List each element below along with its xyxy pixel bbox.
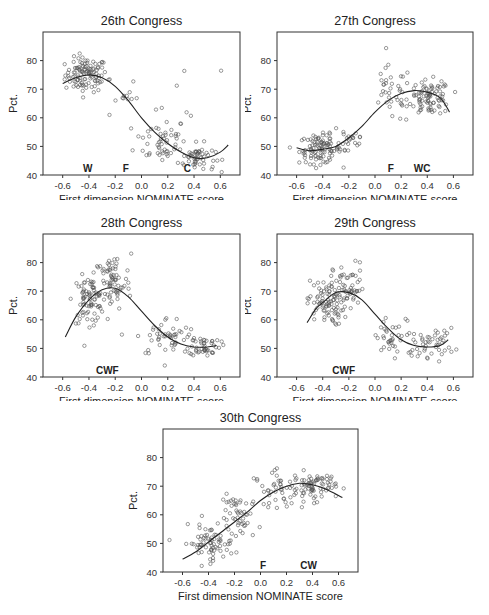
- y-tick-label: 70: [26, 84, 37, 95]
- chart-panel-26: 26th Congress4050607080-0.6-0.4-0.20.00.…: [0, 0, 245, 200]
- chart-panel-29: 29th Congress4050607080-0.6-0.4-0.20.00.…: [245, 201, 489, 401]
- x-tick-label: 0.0: [368, 180, 381, 191]
- chart-title: 29th Congress: [334, 216, 415, 230]
- scatter-points: [306, 259, 458, 363]
- party-marker: CWF: [332, 365, 355, 376]
- x-tick-label: -0.2: [107, 382, 123, 393]
- party-marker: C: [184, 163, 191, 174]
- y-tick-label: 70: [146, 481, 157, 492]
- x-tick-label: -0.2: [341, 180, 357, 191]
- x-tick-label: 0.6: [332, 577, 345, 588]
- y-tick-label: 40: [260, 372, 271, 383]
- y-tick-label: 70: [260, 84, 271, 95]
- x-tick-label: 0.2: [161, 382, 174, 393]
- x-tick-label: 0.0: [254, 577, 267, 588]
- y-tick-label: 40: [260, 170, 271, 181]
- chart-panel-30: 30th Congress4050607080-0.6-0.4-0.20.00.…: [122, 407, 372, 612]
- plot-frame: [43, 32, 240, 175]
- y-tick-label: 50: [146, 538, 157, 549]
- x-tick-label: -0.2: [226, 577, 242, 588]
- y-tick-label: 50: [26, 141, 37, 152]
- x-axis-label: First dimension NOMINATE score: [293, 193, 458, 200]
- x-tick-label: -0.4: [200, 577, 216, 588]
- plot-frame: [277, 32, 473, 175]
- chart-svg: 30th Congress4050607080-0.6-0.4-0.20.00.…: [122, 407, 372, 612]
- x-tick-label: -0.4: [315, 382, 331, 393]
- y-axis-label: Pct.: [245, 296, 253, 315]
- fit-curve: [63, 75, 229, 159]
- y-tick-label: 70: [26, 286, 37, 297]
- x-tick-label: -0.6: [288, 180, 304, 191]
- x-tick-label: 0.2: [395, 382, 408, 393]
- chart-title: 27th Congress: [334, 14, 415, 28]
- x-tick-label: -0.6: [288, 382, 304, 393]
- y-tick-label: 50: [26, 343, 37, 354]
- x-tick-label: 0.6: [214, 382, 227, 393]
- y-tick-label: 70: [260, 286, 271, 297]
- y-axis-label: Pct.: [7, 94, 19, 113]
- y-tick-label: 60: [26, 112, 37, 123]
- y-axis-label: Pct.: [127, 491, 139, 510]
- y-tick-label: 60: [260, 314, 271, 325]
- scatter-points: [69, 252, 225, 367]
- party-marker: CWF: [96, 365, 119, 376]
- x-tick-label: 0.6: [447, 382, 460, 393]
- y-tick-label: 50: [260, 343, 271, 354]
- party-marker: F: [123, 163, 129, 174]
- y-axis-label: Pct.: [7, 296, 19, 315]
- x-axis-label: First dimension NOMINATE score: [59, 395, 224, 401]
- x-axis-label: First dimension NOMINATE score: [293, 395, 458, 401]
- chart-title: 28th Congress: [101, 216, 182, 230]
- x-tick-label: 0.2: [280, 577, 293, 588]
- x-tick-label: -0.6: [55, 180, 71, 191]
- plot-frame: [277, 234, 473, 377]
- y-tick-label: 60: [146, 509, 157, 520]
- y-tick-label: 80: [146, 452, 157, 463]
- x-tick-label: 0.0: [135, 382, 148, 393]
- x-tick-label: 0.2: [395, 180, 408, 191]
- x-tick-label: -0.4: [315, 180, 331, 191]
- chart-svg: 28th Congress4050607080-0.6-0.4-0.20.00.…: [0, 201, 245, 401]
- x-tick-label: -0.6: [55, 382, 71, 393]
- x-tick-label: 0.4: [306, 577, 319, 588]
- scatter-points: [288, 46, 457, 169]
- x-tick-label: 0.4: [187, 382, 200, 393]
- y-tick-label: 60: [26, 314, 37, 325]
- y-tick-label: 40: [26, 170, 37, 181]
- x-axis-label: First dimension NOMINATE score: [178, 590, 343, 602]
- y-axis-label: Pct.: [245, 94, 253, 113]
- party-marker: WC: [414, 163, 431, 174]
- y-tick-label: 60: [260, 112, 271, 123]
- x-tick-label: -0.4: [81, 180, 97, 191]
- x-axis-label: First dimension NOMINATE score: [59, 193, 224, 200]
- chart-panel-28: 28th Congress4050607080-0.6-0.4-0.20.00.…: [0, 201, 245, 401]
- x-tick-label: -0.6: [174, 577, 190, 588]
- x-tick-label: 0.0: [135, 180, 148, 191]
- chart-title: 26th Congress: [101, 14, 182, 28]
- y-tick-label: 40: [146, 567, 157, 578]
- chart-panel-27: 27th Congress4050607080-0.6-0.4-0.20.00.…: [245, 0, 489, 200]
- x-tick-label: 0.0: [368, 382, 381, 393]
- party-marker: F: [260, 560, 266, 571]
- x-tick-label: 0.6: [214, 180, 227, 191]
- x-tick-label: -0.4: [81, 382, 97, 393]
- y-tick-label: 50: [260, 141, 271, 152]
- party-marker: F: [388, 163, 394, 174]
- chart-title: 30th Congress: [220, 411, 301, 425]
- x-tick-label: 0.4: [187, 180, 200, 191]
- x-tick-label: 0.2: [161, 180, 174, 191]
- scatter-points: [63, 52, 224, 174]
- fit-curve: [183, 483, 343, 559]
- party-marker: CW: [300, 560, 317, 571]
- y-tick-label: 80: [26, 257, 37, 268]
- chart-svg: 27th Congress4050607080-0.6-0.4-0.20.00.…: [245, 0, 489, 200]
- x-tick-label: -0.2: [341, 382, 357, 393]
- y-tick-label: 80: [26, 55, 37, 66]
- y-tick-label: 80: [260, 257, 271, 268]
- plot-frame: [43, 234, 240, 377]
- party-marker: W: [83, 163, 93, 174]
- x-tick-label: -0.2: [107, 180, 123, 191]
- y-tick-label: 40: [26, 372, 37, 383]
- chart-svg: 26th Congress4050607080-0.6-0.4-0.20.00.…: [0, 0, 245, 200]
- chart-svg: 29th Congress4050607080-0.6-0.4-0.20.00.…: [245, 201, 489, 401]
